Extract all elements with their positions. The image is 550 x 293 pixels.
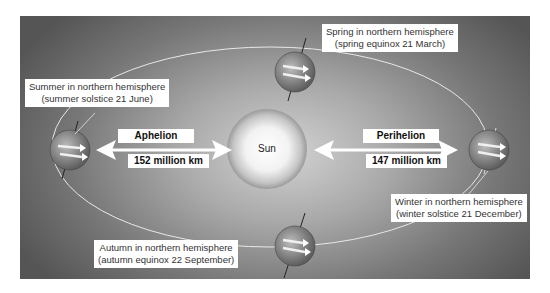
winter-leader-line: [468, 171, 488, 195]
sun-label: Sun: [258, 143, 276, 154]
earth-winter-globe: [469, 128, 509, 174]
aphelion-distance: 152 million km: [128, 154, 209, 168]
autumn-label-line2: (autumn equinox 22 September): [98, 254, 234, 266]
autumn-label: Autumn in northern hemisphere (autumn eq…: [94, 240, 238, 268]
summer-leader-line: [75, 113, 95, 134]
summer-label-line1: Summer in northern hemisphere: [29, 81, 165, 93]
spring-label-line1: Spring in northern hemisphere: [326, 26, 454, 38]
orbit-diagram: Sun Aphelion 152 million km Perihelion 1…: [20, 16, 530, 279]
winter-label-line2: (winter solstice 21 December): [395, 208, 523, 220]
winter-label: Winter in northern hemisphere (winter so…: [391, 194, 527, 222]
perihelion-distance: 147 million km: [366, 154, 447, 168]
spring-label-line2: (spring equinox 21 March): [326, 38, 454, 50]
perihelion-label: Perihelion: [363, 129, 439, 143]
earth-summer-globe: [50, 121, 90, 179]
winter-label-line1: Winter in northern hemisphere: [395, 196, 523, 208]
autumn-label-line1: Autumn in northern hemisphere: [98, 242, 234, 254]
summer-label: Summer in northern hemisphere (summer so…: [25, 79, 169, 107]
earth-autumn-globe: [275, 213, 315, 278]
spring-label: Spring in northern hemisphere (spring eq…: [322, 24, 458, 52]
aphelion-label: Aphelion: [118, 129, 194, 143]
summer-label-line2: (summer solstice 21 June): [29, 93, 165, 105]
